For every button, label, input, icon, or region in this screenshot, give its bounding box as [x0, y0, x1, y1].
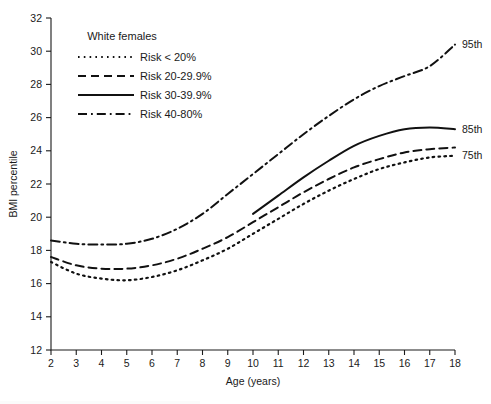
x-axis-title: Age (years) [226, 375, 280, 387]
x-tick-label: 3 [73, 357, 79, 369]
y-tick-label: 24 [30, 144, 42, 156]
x-tick-label: 13 [323, 357, 335, 369]
legend-label-2: Risk 30-39.9% [140, 89, 212, 101]
x-tick-label: 7 [174, 357, 180, 369]
axis-lines [51, 18, 455, 350]
series-line-2 [253, 128, 455, 214]
x-tick-label: 8 [200, 357, 206, 369]
x-tick-label: 10 [247, 357, 259, 369]
legend-label-3: Risk 40-80% [140, 108, 203, 120]
bmi-percentile-chart: 1214161820222426283032234567891011121314… [0, 0, 491, 404]
y-tick-label: 16 [30, 277, 42, 289]
y-tick-label: 20 [30, 211, 42, 223]
chart-page: 1214161820222426283032234567891011121314… [0, 0, 491, 404]
legend-label-0: Risk < 20% [140, 51, 196, 63]
y-tick-label: 28 [30, 78, 42, 90]
y-tick-label: 30 [30, 45, 42, 57]
legend-title: White females [87, 30, 157, 42]
x-tick-label: 17 [424, 357, 436, 369]
legend-label-1: Risk 20-29.9% [140, 70, 212, 82]
x-tick-label: 9 [225, 357, 231, 369]
x-tick-label: 16 [399, 357, 411, 369]
y-tick-label: 22 [30, 178, 42, 190]
x-tick-label: 2 [48, 357, 54, 369]
x-tick-label: 4 [99, 357, 105, 369]
x-tick-label: 11 [273, 357, 284, 369]
y-tick-label: 14 [30, 310, 42, 322]
endpoint-label-1: 85th [462, 123, 483, 135]
x-tick-label: 15 [373, 357, 385, 369]
y-tick-label: 12 [30, 344, 42, 356]
y-tick-label: 32 [30, 12, 42, 24]
x-tick-label: 14 [348, 357, 360, 369]
y-tick-label: 18 [30, 244, 42, 256]
x-tick-label: 12 [298, 357, 310, 369]
y-axis-title: BMI percentile [7, 150, 19, 217]
x-tick-label: 18 [449, 357, 461, 369]
endpoint-label-2: 75th [462, 149, 483, 161]
y-tick-label: 26 [30, 111, 42, 123]
x-tick-label: 6 [149, 357, 155, 369]
x-tick-label: 5 [124, 357, 130, 369]
endpoint-label-0: 95th [462, 38, 483, 50]
